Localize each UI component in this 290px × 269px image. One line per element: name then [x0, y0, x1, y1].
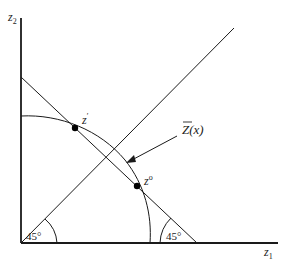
point-z-zero: [134, 183, 140, 189]
curve-label: Z(x): [182, 122, 204, 137]
point-z-prime-label: z′: [81, 112, 89, 127]
angle-arc-origin: [45, 219, 57, 243]
diagram-canvas: z2 z1 z′ zo Z(x) 45° 45°: [0, 0, 290, 269]
angle-label-xintercept: 45°: [166, 230, 181, 242]
x-axis-label: z1: [263, 245, 273, 261]
angle-label-origin: 45°: [26, 230, 41, 242]
y-axis-label: z2: [7, 10, 17, 26]
curve-pointer-arrow: [130, 136, 177, 161]
arrowhead-icon: [126, 155, 136, 163]
point-z-prime: [72, 125, 78, 131]
point-z-zero-label: zo: [143, 173, 153, 188]
